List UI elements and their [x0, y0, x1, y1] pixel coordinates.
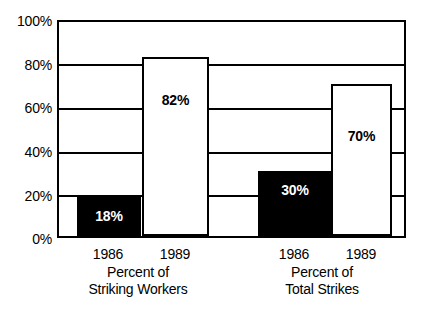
bar-striking-workers-1986: 18% [77, 197, 141, 236]
bar-chart: 100% 80% 60% 40% 20% 0% 18% 82% 30% 70% … [0, 0, 424, 310]
y-tick-label-100: 100% [4, 14, 52, 28]
y-tick-label-0: 0% [4, 232, 52, 246]
y-tick-label-60: 60% [4, 101, 52, 115]
bar-value-label: 30% [260, 182, 330, 198]
y-tick-label-80: 80% [4, 58, 52, 72]
gridline-80 [59, 64, 404, 66]
group-caption-line-2: Total Strikes [252, 281, 392, 298]
bar-striking-workers-1989: 82% [142, 57, 209, 236]
group-caption-total-strikes: Percent of Total Strikes [252, 264, 392, 298]
bar-value-label: 82% [144, 92, 207, 108]
bar-total-strikes-1986: 30% [258, 171, 332, 236]
y-tick-label-20: 20% [4, 189, 52, 203]
x-tick-label-total-1989: 1989 [331, 246, 391, 262]
x-tick-label-striking-1989: 1989 [142, 246, 208, 262]
group-caption-striking-workers: Percent of Striking Workers [68, 264, 208, 298]
bar-value-label: 18% [79, 208, 139, 224]
bar-value-label: 70% [333, 128, 390, 144]
group-caption-line-2: Striking Workers [68, 281, 208, 298]
x-tick-label-total-1986: 1986 [258, 246, 330, 262]
group-caption-line-1: Percent of [68, 264, 208, 281]
group-caption-line-1: Percent of [252, 264, 392, 281]
bar-total-strikes-1989: 70% [331, 84, 392, 236]
y-tick-label-40: 40% [4, 145, 52, 159]
x-tick-label-striking-1986: 1986 [77, 246, 139, 262]
y-axis: 100% 80% 60% 40% 20% 0% [0, 0, 52, 310]
plot-area: 18% 82% 30% 70% [57, 20, 406, 238]
